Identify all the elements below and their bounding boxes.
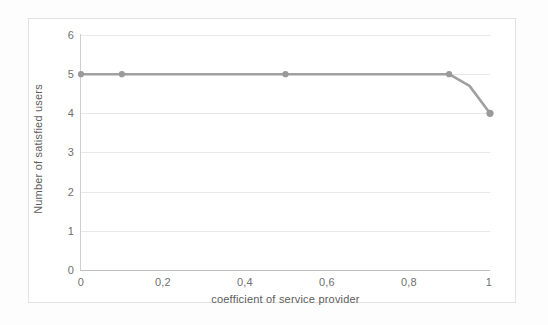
x-tick-label-2: 0,4 — [237, 276, 253, 288]
y-tick-label-0: 0 — [34, 264, 74, 276]
y-axis-title: Number of satisfied users — [32, 49, 44, 249]
x-axis-tick-labels: 0 0,2 0,4 0,6 0,8 1 — [0, 276, 548, 292]
data-point-marker — [282, 71, 288, 77]
x-tick-label-5: 1 — [486, 276, 492, 288]
x-tick-label-1: 0,2 — [155, 276, 171, 288]
data-point-marker — [78, 71, 84, 77]
chart-figure: 0 1 2 3 4 5 6 0 0,2 0,4 0,6 0,8 1 coeffi… — [0, 0, 548, 325]
x-axis-title: coefficient of service provider — [81, 293, 490, 305]
series-line — [81, 74, 490, 113]
data-point-marker — [119, 71, 125, 77]
x-tick-label-4: 0,8 — [401, 276, 417, 288]
x-tick-label-0: 0 — [78, 276, 84, 288]
data-point-marker — [486, 110, 493, 117]
data-point-marker — [446, 71, 452, 77]
y-tick-label-6: 6 — [34, 29, 74, 41]
x-tick-label-3: 0,6 — [319, 276, 335, 288]
